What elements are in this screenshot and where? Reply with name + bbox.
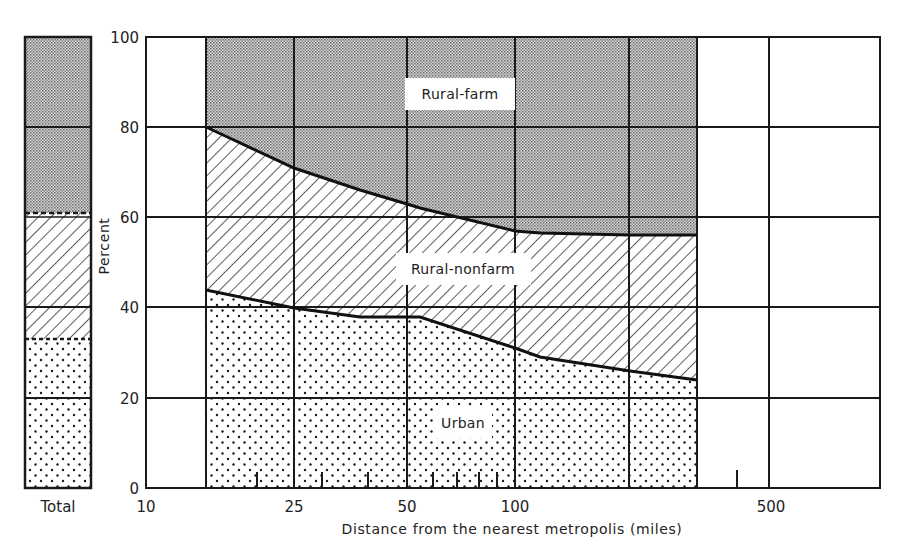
label-rural-farm: Rural-farm: [405, 78, 515, 110]
total-label: Total: [39, 498, 75, 516]
y-tick-40: 40: [120, 299, 139, 317]
x-tick-500: 500: [757, 498, 786, 516]
chart: Total 100 80 60 40 20 0 Percent: [0, 0, 902, 559]
y-tick-20: 20: [120, 390, 139, 408]
svg-text:Rural-nonfarm: Rural-nonfarm: [411, 261, 515, 277]
svg-text:Rural-farm: Rural-farm: [422, 86, 499, 102]
x-tick-50: 50: [397, 498, 416, 516]
y-tick-0: 0: [129, 480, 139, 498]
total-bar-rural-farm: [25, 37, 91, 213]
y-axis: 100 80 60 40 20 0 Percent: [96, 29, 139, 498]
total-bar-rural-nonfarm: [25, 213, 91, 339]
x-axis: 10 25 50 100 500 Distance from the neare…: [136, 498, 785, 537]
y-tick-100: 100: [110, 29, 139, 47]
plot-area: Rural-farm Rural-nonfarm Urban: [146, 37, 880, 488]
y-tick-80: 80: [120, 119, 139, 137]
y-axis-title: Percent: [96, 218, 112, 275]
svg-text:Urban: Urban: [441, 415, 485, 431]
total-bar: Total: [25, 37, 91, 516]
x-tick-10: 10: [136, 498, 155, 516]
x-tick-100: 100: [501, 498, 530, 516]
y-tick-60: 60: [120, 209, 139, 227]
total-bar-urban: [25, 339, 91, 488]
label-rural-nonfarm: Rural-nonfarm: [396, 253, 531, 285]
label-urban: Urban: [434, 408, 492, 438]
x-axis-title: Distance from the nearest metropolis (mi…: [342, 521, 683, 537]
x-tick-25: 25: [284, 498, 303, 516]
